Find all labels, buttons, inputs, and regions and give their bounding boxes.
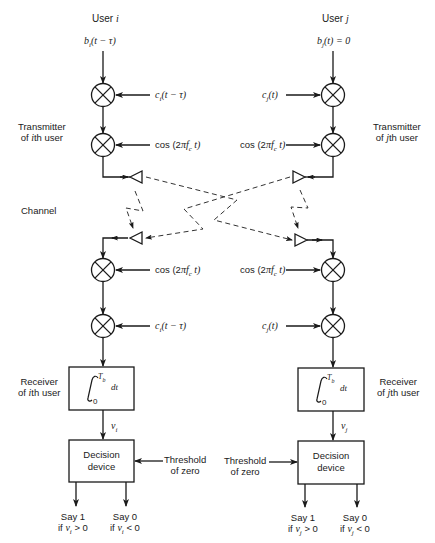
left-integral-dt: dt <box>111 382 118 393</box>
channel-path-i-to-j <box>146 177 292 240</box>
threshold-left-label: Threshold of zero <box>164 454 206 476</box>
receiver-j-label: Receiver of jth user <box>377 376 419 398</box>
channel-paths <box>126 177 308 240</box>
right-rx-code-mixer <box>322 315 345 338</box>
tx-carrier-left: cos (2πfc t) <box>155 139 200 155</box>
rx-code-signal-c-i: ci(t − τ) <box>155 320 186 336</box>
threshold-right-label: Threshold of zero <box>224 455 266 477</box>
right-integral-lower-limit: 0 <box>322 397 326 408</box>
rx-carrier-left: cos (2πfc t) <box>155 264 200 280</box>
rx-code-signal-c-j: cj(t) <box>262 320 278 336</box>
transmitter-i-label: Transmitter of ith user <box>18 121 66 143</box>
left-rx-antenna <box>130 232 142 244</box>
user-i-title: User i <box>92 13 119 24</box>
right-tx-carrier-mixer <box>322 134 345 157</box>
left-integral-upper-limit: Tb <box>98 371 105 386</box>
channel-path-j-to-j <box>291 190 308 228</box>
right-tx-antenna <box>293 171 305 183</box>
channel-label: Channel <box>21 205 56 216</box>
user-i-var: i <box>116 13 119 24</box>
tx-carrier-right: cos (2πfc t) <box>240 139 285 155</box>
left-tx-code-mixer <box>92 84 115 107</box>
block-diagram-graphics <box>0 0 435 543</box>
output-var-v-i: vi <box>111 420 117 436</box>
left-rx-carrier-mixer <box>92 259 115 282</box>
transmitter-j-label: Transmitter of jth user <box>373 121 421 143</box>
left-rx-code-mixer <box>92 315 115 338</box>
right-tx-code-mixer <box>322 84 345 107</box>
left-integral-lower-limit: 0 <box>93 396 97 407</box>
left-tx-carrier-mixer <box>92 134 115 157</box>
input-signal-b-j: bj(t) = 0 <box>317 35 350 51</box>
left-output-say0: Say 0 if vi < 0 <box>110 511 140 538</box>
left-decision-label: Decision device <box>69 449 134 473</box>
left-output-say1: Say 1 if vi > 0 <box>58 511 88 538</box>
left-tx-antenna <box>130 171 142 183</box>
channel-path-i-to-i <box>126 191 143 228</box>
right-decision-label: Decision device <box>298 450 364 474</box>
receiver-i-label: Receiver of ith user <box>18 376 60 398</box>
rx-carrier-right: cos (2πfc t) <box>240 264 285 280</box>
right-integral-upper-limit: Tb <box>327 372 334 387</box>
tx-code-signal-c-j: cj(t) <box>262 89 278 105</box>
tx-code-signal-c-i: ci(t − τ) <box>155 89 186 105</box>
right-rx-carrier-mixer <box>322 259 345 282</box>
output-var-v-j: vj <box>341 420 347 436</box>
input-signal-b-i: bi(t − τ) <box>84 35 116 51</box>
user-j-title: User j <box>322 13 349 24</box>
channel-path-j-to-i <box>146 177 290 238</box>
user-j-var: j <box>346 13 349 24</box>
right-integral-dt: dt <box>340 383 347 394</box>
right-output-say1: Say 1 if vj > 0 <box>288 512 318 539</box>
right-output-say0: Say 0 if vj < 0 <box>340 512 370 539</box>
right-rx-antenna <box>295 234 307 246</box>
